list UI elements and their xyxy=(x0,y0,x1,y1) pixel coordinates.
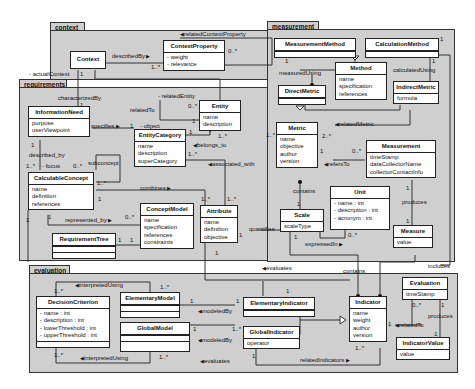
attribute: collectorContactInfo xyxy=(370,169,432,177)
class-indicator[interactable]: Indicator name weight author version xyxy=(349,296,387,342)
attribute: references xyxy=(144,232,190,240)
multiplicity: 1 xyxy=(252,353,255,360)
attribute: - name : int xyxy=(40,310,106,318)
attribute-compartment xyxy=(279,98,325,104)
class-globalindicator[interactable]: GlobalIndicator operator xyxy=(243,326,300,349)
class-name: IndirectMetric xyxy=(394,82,438,94)
multiplicity: 1 xyxy=(215,250,218,257)
attribute: - acronym : int xyxy=(334,215,386,223)
multiplicity: 1 xyxy=(441,302,444,309)
class-measure[interactable]: Measure value xyxy=(393,225,433,248)
multiplicity: 1 xyxy=(406,185,409,192)
assoc-label: - focus xyxy=(42,163,60,170)
attribute: timeStamp xyxy=(370,154,432,162)
multiplicity: 1 xyxy=(26,217,29,224)
class-attribute[interactable]: Attribute name definition objective xyxy=(200,205,238,243)
assoc-label: modeledBy xyxy=(198,308,232,315)
assoc-label: relatedIndicators xyxy=(300,357,350,364)
class-measurementmethod[interactable]: MeasurementMethod xyxy=(274,38,356,58)
class-context[interactable]: Context xyxy=(70,51,106,69)
attribute: weight xyxy=(353,317,383,325)
multiplicity: 1 xyxy=(236,298,239,305)
class-requirementtree[interactable]: RequirementTree xyxy=(52,233,116,259)
class-name: GlobalModel xyxy=(121,323,189,335)
class-name: ContextProperty xyxy=(164,41,224,53)
class-name: EntityCategory xyxy=(135,130,185,142)
multiplicity: 1 xyxy=(440,36,443,43)
class-name: CalculationMethod xyxy=(366,39,438,51)
class-indicatorvalue[interactable]: IndicatorValue value xyxy=(396,337,450,360)
class-unit[interactable]: Unit - name : int - description : int - … xyxy=(330,186,390,230)
assoc-label: expressedIn xyxy=(305,241,343,248)
multiplicity: 1 xyxy=(130,237,133,244)
class-conceptmodel[interactable]: ConceptModel name specification referenc… xyxy=(140,203,194,249)
multiplicity: 1 xyxy=(48,214,51,221)
multiplicity: 1..* xyxy=(159,354,168,361)
multiplicity: 1..* xyxy=(188,151,197,158)
assoc-label: associated_with xyxy=(208,161,255,168)
operation-compartment xyxy=(37,341,109,347)
assoc-label: relatedTo xyxy=(130,107,155,114)
multiplicity: 1 xyxy=(286,288,289,295)
assoc-label: - object xyxy=(140,123,160,130)
assoc-label: refersTo xyxy=(324,161,350,168)
attribute: objective xyxy=(204,234,234,242)
class-informationneed[interactable]: InformationNeed purpose userViewpoint xyxy=(28,106,90,137)
multiplicity: 1 xyxy=(98,196,101,203)
multiplicity: 1 xyxy=(432,58,435,65)
multiplicity: 1 xyxy=(192,118,195,125)
class-entitycategory[interactable]: EntityCategory name description superCat… xyxy=(134,129,186,167)
class-name: Context xyxy=(71,52,105,65)
assoc-label: measuredUsing xyxy=(279,70,321,77)
class-elementaryindicator[interactable]: ElementaryIndicator xyxy=(243,297,315,317)
attribute: name xyxy=(339,76,383,84)
class-measurement[interactable]: Measurement timeStamp dataCollectorName … xyxy=(366,140,436,178)
class-name: Evaluation xyxy=(403,278,447,290)
assoc-label: produces xyxy=(428,313,453,320)
attribute: dataCollectorName xyxy=(370,161,432,169)
assoc-label: evaluates xyxy=(200,358,230,365)
class-method[interactable]: Method name specification references xyxy=(335,62,387,100)
class-entity[interactable]: Entity name description xyxy=(199,100,241,131)
multiplicity: 1..* xyxy=(201,196,210,203)
assoc-label: modeledBy xyxy=(198,337,232,344)
class-directmetric[interactable]: DirectMetric xyxy=(278,85,326,105)
class-calculationmethod[interactable]: CalculationMethod xyxy=(365,38,439,58)
class-contextproperty[interactable]: ContextProperty - weight - relevance xyxy=(163,40,225,71)
class-scale[interactable]: Scale scaleType xyxy=(280,209,324,232)
multiplicity: 1..* xyxy=(227,196,236,203)
multiplicity: 1 xyxy=(320,148,323,155)
multiplicity: 1 xyxy=(80,71,83,78)
class-calculableconcept[interactable]: CalculableConcept name definition refere… xyxy=(28,172,94,210)
class-name: DecisionCriterion xyxy=(37,297,109,309)
attribute: version xyxy=(353,332,383,340)
class-elementarymodel[interactable]: ElementaryModel xyxy=(120,292,180,318)
class-evaluation[interactable]: Evaluation timeStamp xyxy=(402,277,448,300)
attribute: references xyxy=(32,201,90,209)
attribute: formula xyxy=(397,95,435,103)
class-indirectmetric[interactable]: IndirectMetric formula xyxy=(393,81,439,104)
multiplicity: 1 xyxy=(388,321,391,328)
assoc-label: specifies xyxy=(91,123,120,130)
class-name: MeasurementMethod xyxy=(275,39,355,51)
attribute: objective xyxy=(280,143,314,151)
assoc-label: includes xyxy=(428,263,450,270)
attribute: specification xyxy=(144,224,190,232)
assoc-label: contains xyxy=(293,188,315,195)
attribute: definition xyxy=(204,226,234,234)
multiplicity: 1 xyxy=(294,234,297,241)
multiplicity: 0..* xyxy=(125,214,134,221)
assoc-label: combines xyxy=(140,185,171,192)
multiplicity: 2..* xyxy=(322,133,331,140)
class-globalmodel[interactable]: GlobalModel xyxy=(120,322,190,352)
class-name: IndicatorValue xyxy=(397,338,449,350)
multiplicity: 0..* xyxy=(412,302,421,309)
assoc-label: interpretedUsing xyxy=(80,355,128,362)
multiplicity: 1..* xyxy=(160,284,169,291)
attribute: scaleType xyxy=(284,223,320,231)
class-metric[interactable]: Metric name objective author version xyxy=(276,122,318,168)
attribute: name xyxy=(280,136,314,144)
class-decisioncriterion[interactable]: DecisionCriterion - name : int - descrip… xyxy=(36,296,110,348)
assoc-label: describedBy xyxy=(112,53,150,60)
multiplicity: 1..* xyxy=(266,132,275,139)
